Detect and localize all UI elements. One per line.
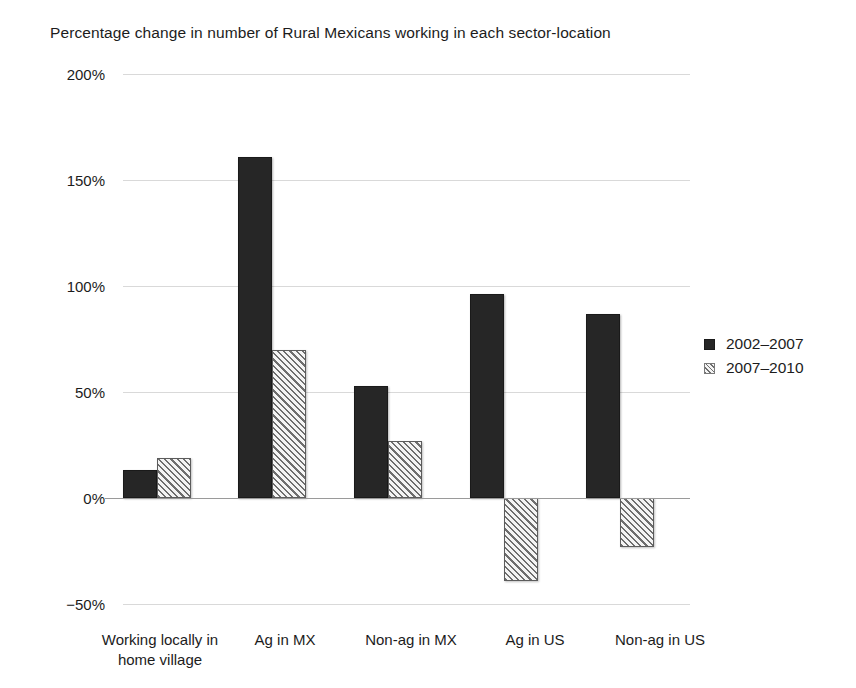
zero-axis-line (105, 498, 690, 499)
bar-ag-in-us-2007-2010 (504, 498, 538, 581)
y-tick-label-200: 200% (33, 66, 105, 83)
x-tick-label-non-ag-in-mx: Non-ag in MX (341, 630, 481, 650)
legend-swatch-solid-icon (704, 339, 715, 350)
gridline-neg50 (123, 604, 690, 605)
y-tick-label-50: 50% (33, 384, 105, 401)
bars-layer (123, 74, 690, 604)
y-tick-label-100: 100% (33, 278, 105, 295)
legend-label-2007-2010: 2007–2010 (726, 359, 804, 377)
bar-ag-in-us-2002-2007 (470, 294, 504, 498)
chart-title: Percentage change in number of Rural Mex… (50, 24, 611, 42)
bar-ag-in-mx-2007-2010 (272, 350, 306, 498)
bar-ag-in-mx-2002-2007 (238, 157, 272, 498)
chart-legend: 2002–2007 2007–2010 (704, 332, 844, 380)
y-axis: 200% 150% 100% 50% 0% −50% (33, 74, 105, 604)
plot-area (123, 74, 690, 604)
bar-non-ag-in-mx-2007-2010 (388, 441, 422, 498)
x-axis: Working locally in home village Ag in MX… (85, 630, 735, 685)
x-tick-label-ag-in-us: Ag in US (480, 630, 590, 650)
legend-item-2002-2007: 2002–2007 (704, 332, 844, 356)
x-tick-label-non-ag-in-us: Non-ag in US (590, 630, 730, 650)
bar-non-ag-in-mx-2002-2007 (354, 386, 388, 498)
x-tick-label-working-locally: Working locally in home village (85, 630, 235, 670)
bar-non-ag-in-us-2007-2010 (620, 498, 654, 547)
legend-swatch-hatch-icon (704, 363, 715, 374)
x-tick-line2: home village (85, 650, 235, 670)
chart-container: Percentage change in number of Rural Mex… (0, 0, 856, 688)
y-tick-label-neg50: −50% (33, 596, 105, 613)
legend-label-2002-2007: 2002–2007 (726, 335, 804, 353)
legend-item-2007-2010: 2007–2010 (704, 356, 844, 380)
bar-working-locally-in-home-village-2007-2010 (157, 458, 191, 498)
bar-working-locally-in-home-village-2002-2007 (123, 470, 157, 498)
y-tick-label-0: 0% (33, 490, 105, 507)
y-tick-label-150: 150% (33, 172, 105, 189)
bar-non-ag-in-us-2002-2007 (586, 314, 620, 498)
x-tick-label-ag-in-mx: Ag in MX (230, 630, 340, 650)
x-tick-line1: Working locally in (85, 630, 235, 650)
